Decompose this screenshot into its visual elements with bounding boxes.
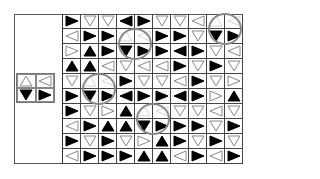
black-right-triangle-icon[interactable] [99, 134, 117, 149]
black-right-triangle-icon[interactable] [171, 134, 189, 149]
white-down-triangle-icon[interactable] [189, 104, 207, 119]
white-right-triangle-icon[interactable] [207, 89, 225, 104]
white-left-triangle-icon[interactable] [171, 149, 189, 164]
black-right-triangle-icon[interactable] [189, 44, 207, 59]
black-right-triangle-icon[interactable] [81, 29, 99, 44]
black-right-triangle-icon[interactable] [135, 14, 153, 29]
black-up-triangle-icon[interactable] [63, 59, 81, 74]
black-up-triangle-icon[interactable] [99, 119, 117, 134]
white-down-triangle-icon[interactable] [225, 59, 243, 74]
black-up-triangle-icon[interactable] [117, 119, 135, 134]
white-left-triangle-icon[interactable] [63, 149, 81, 164]
white-down-triangle-icon[interactable] [81, 134, 99, 149]
white-left-triangle-icon[interactable] [153, 59, 171, 74]
white-right-triangle-icon[interactable] [63, 44, 81, 59]
white-right-triangle-icon[interactable] [135, 134, 153, 149]
black-right-triangle-icon[interactable] [117, 74, 135, 89]
white-left-triangle-icon[interactable] [99, 59, 117, 74]
white-down-triangle-icon[interactable] [171, 104, 189, 119]
black-right-triangle-icon[interactable] [135, 44, 153, 59]
black-right-triangle-icon[interactable] [189, 74, 207, 89]
black-up-triangle-icon[interactable] [153, 134, 171, 149]
black-right-triangle-icon[interactable] [63, 104, 81, 119]
black-right-triangle-icon[interactable] [153, 89, 171, 104]
black-up-triangle-icon[interactable] [81, 44, 99, 59]
black-right-triangle-icon[interactable] [153, 29, 171, 44]
white-left-triangle-icon[interactable] [225, 44, 243, 59]
white-right-triangle-icon[interactable] [99, 104, 117, 119]
black-right-triangle-icon[interactable] [153, 119, 171, 134]
white-down-triangle-icon[interactable] [225, 134, 243, 149]
white-down-triangle-icon[interactable] [117, 59, 135, 74]
white-left-triangle-icon[interactable] [207, 104, 225, 119]
white-down-triangle-icon[interactable] [99, 14, 117, 29]
black-right-triangle-icon[interactable] [99, 89, 117, 104]
black-up-triangle-icon[interactable] [153, 149, 171, 164]
white-down-triangle-icon[interactable] [117, 134, 135, 149]
white-down-triangle-icon[interactable] [207, 119, 225, 134]
black-right-triangle-icon[interactable] [99, 44, 117, 59]
white-down-triangle-icon[interactable] [63, 74, 81, 89]
black-up-triangle-icon[interactable] [135, 149, 153, 164]
white-left-triangle-icon[interactable] [63, 119, 81, 134]
white-down-triangle-icon[interactable] [153, 74, 171, 89]
black-right-triangle-icon[interactable] [189, 119, 207, 134]
white-down-triangle-icon[interactable] [135, 74, 153, 89]
white-down-triangle-icon[interactable] [81, 104, 99, 119]
white-left-triangle-icon[interactable] [135, 29, 153, 44]
black-down-triangle-icon[interactable] [207, 29, 225, 44]
white-down-triangle-icon[interactable] [189, 59, 207, 74]
white-up-triangle-icon[interactable] [207, 14, 225, 29]
white-left-triangle-icon[interactable] [225, 14, 243, 29]
black-right-triangle-icon[interactable] [63, 89, 81, 104]
black-left-triangle-icon[interactable] [171, 89, 189, 104]
black-up-triangle-icon[interactable] [117, 104, 135, 119]
white-up-triangle-icon[interactable] [117, 29, 135, 44]
white-right-triangle-icon[interactable] [225, 74, 243, 89]
black-down-triangle-icon[interactable] [135, 119, 153, 134]
white-down-triangle-icon[interactable] [207, 74, 225, 89]
black-up-triangle-icon[interactable] [225, 89, 243, 104]
white-down-triangle-icon[interactable] [81, 14, 99, 29]
black-right-triangle-icon[interactable] [171, 59, 189, 74]
white-left-triangle-icon[interactable] [99, 74, 117, 89]
white-left-triangle-icon[interactable] [135, 59, 153, 74]
black-right-triangle-icon[interactable] [63, 134, 81, 149]
black-left-triangle-icon[interactable] [171, 44, 189, 59]
white-down-triangle-icon[interactable] [171, 14, 189, 29]
white-left-triangle-icon[interactable] [207, 149, 225, 164]
black-right-triangle-icon[interactable] [117, 149, 135, 164]
white-left-triangle-icon[interactable] [63, 29, 81, 44]
black-right-triangle-icon[interactable] [189, 149, 207, 164]
black-up-triangle-icon[interactable] [81, 59, 99, 74]
black-right-triangle-icon[interactable] [99, 29, 117, 44]
black-right-triangle-icon[interactable] [171, 29, 189, 44]
black-right-triangle-icon[interactable] [81, 119, 99, 134]
black-right-triangle-icon[interactable] [63, 14, 81, 29]
black-right-triangle-icon[interactable] [135, 89, 153, 104]
black-right-triangle-icon[interactable] [153, 44, 171, 59]
black-down-triangle-icon[interactable] [81, 89, 99, 104]
white-up-triangle-icon[interactable] [135, 104, 153, 119]
black-right-triangle-icon[interactable] [81, 149, 99, 164]
white-up-triangle-icon[interactable] [81, 74, 99, 89]
white-down-triangle-icon[interactable] [153, 14, 171, 29]
black-left-triangle-icon[interactable] [117, 89, 135, 104]
black-right-triangle-icon[interactable] [225, 119, 243, 134]
black-right-triangle-icon[interactable] [225, 149, 243, 164]
white-left-triangle-icon[interactable] [189, 14, 207, 29]
white-left-triangle-icon[interactable] [171, 74, 189, 89]
white-down-triangle-icon[interactable] [189, 134, 207, 149]
black-right-triangle-icon[interactable] [99, 149, 117, 164]
white-left-triangle-icon[interactable] [153, 104, 171, 119]
black-left-triangle-icon[interactable] [117, 14, 135, 29]
black-right-triangle-icon[interactable] [207, 59, 225, 74]
black-down-triangle-icon[interactable] [117, 44, 135, 59]
black-right-triangle-icon[interactable] [207, 134, 225, 149]
black-right-triangle-icon[interactable] [189, 89, 207, 104]
white-down-triangle-icon[interactable] [207, 44, 225, 59]
white-down-triangle-icon[interactable] [225, 104, 243, 119]
black-right-triangle-icon[interactable] [225, 29, 243, 44]
black-right-triangle-icon[interactable] [171, 119, 189, 134]
white-down-triangle-icon[interactable] [189, 29, 207, 44]
